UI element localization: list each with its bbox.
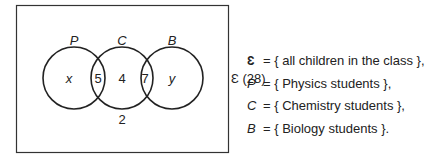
legend-row-biology: B= { Biology students }. (247, 118, 425, 141)
set-b-label: B (168, 33, 177, 48)
legend-row-chemistry: C= { Chemistry students }, (247, 95, 425, 118)
region-outside: 2 (118, 112, 125, 127)
region-p-and-c: 5 (94, 71, 101, 86)
legend-row-physics: P= { Physics students }, (247, 73, 425, 96)
set-c-label: C (117, 33, 127, 48)
region-b-only: y (168, 71, 177, 86)
region-p-only: x (65, 71, 73, 86)
region-c-only: 4 (118, 71, 125, 86)
legend-row-universe: Ɛ= { all children in the class }, (247, 50, 425, 73)
legend: Ɛ= { all children in the class }, P= { P… (247, 50, 425, 140)
set-p-label: P (70, 33, 79, 48)
region-c-and-b: 7 (141, 71, 148, 86)
